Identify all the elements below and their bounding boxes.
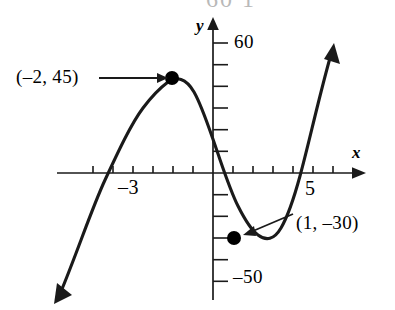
- x-tick-label-neg3: –3: [118, 176, 139, 199]
- x-tick-label-5: 5: [305, 177, 315, 200]
- x-axis: [57, 166, 366, 179]
- x-axis-arrowhead: [352, 167, 366, 179]
- y-axis-label: y: [196, 16, 204, 36]
- y-tick-label-neg50: –50: [233, 266, 263, 288]
- graph-figure: 60 1: [0, 0, 395, 310]
- y-axis-arrowhead: [207, 17, 219, 30]
- coordinate-plane-svg: [0, 0, 395, 310]
- annotation-arrow-max: [99, 73, 168, 83]
- annotation-label-max: (–2, 45): [16, 66, 79, 88]
- annotation-label-min: (1, –30): [296, 212, 359, 234]
- data-point-min: [227, 231, 241, 245]
- y-axis: [207, 17, 228, 300]
- x-axis-label: x: [352, 143, 361, 163]
- y-tick-label-60: 60: [234, 31, 254, 53]
- curve-arrowhead-right: [324, 43, 340, 64]
